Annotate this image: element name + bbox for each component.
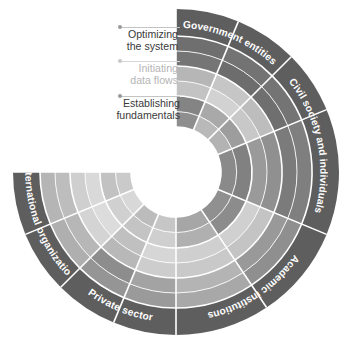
legend-label-line1-initiating-data-flows: Initiating xyxy=(0,63,178,75)
legend-label-line1-establishing-fundamentals: Establishing xyxy=(0,98,180,110)
legend-label-line2-initiating-data-flows: data flows xyxy=(0,75,178,87)
center-hole xyxy=(131,127,221,217)
wheel-center-hole xyxy=(131,127,221,217)
legend-item-establishing-fundamentals[interactable]: Establishingfundamentals xyxy=(0,98,180,121)
legend-item-initiating-data-flows[interactable]: Initiatingdata flows xyxy=(0,63,178,86)
legend-label-line2-establishing-fundamentals: fundamentals xyxy=(0,110,180,122)
legend-label-line1-optimizing-the-system: Optimizing xyxy=(0,29,178,41)
radial-wheel-figure: Government entitiesCivil society and ind… xyxy=(0,0,355,358)
legend-item-optimizing-the-system[interactable]: Optimizingthe system xyxy=(0,29,178,52)
legend-label-line2-optimizing-the-system: the system xyxy=(0,41,178,53)
wheel-svg: Government entitiesCivil society and ind… xyxy=(0,0,355,358)
